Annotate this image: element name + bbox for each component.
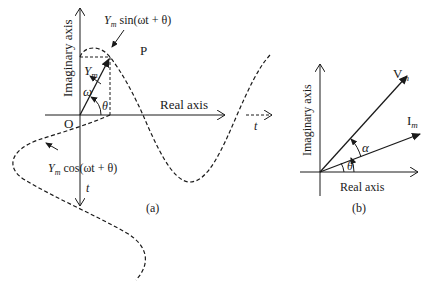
time-label-down: t <box>86 181 90 195</box>
phasor-ym-label: Ym <box>84 63 98 80</box>
theta-arc-b <box>341 163 344 172</box>
vm-label: Vm <box>393 66 409 83</box>
im-label: Im <box>407 113 418 130</box>
alpha-label: α <box>362 140 370 155</box>
imaginary-axis-label-a: Imaginary axis <box>60 19 75 97</box>
theta-label-a: θ <box>102 99 108 113</box>
real-axis-label-b: Real axis <box>340 180 385 194</box>
time-label-right: t <box>254 119 258 133</box>
cosine-trace <box>13 115 146 280</box>
panel-b: Imaginary axis Real axis Vm Im α θ (b) <box>300 64 420 215</box>
theta-label-b: θ <box>347 159 353 173</box>
phasor-diagram: Imaginary axis Real axis O P Ym ω θ Ym s… <box>0 0 433 293</box>
alpha-arc <box>351 139 361 157</box>
phasor-im <box>320 134 420 172</box>
point-p-label: P <box>140 43 147 58</box>
panel-a-caption: (a) <box>146 201 159 215</box>
imaginary-axis-label-b: Imaginary axis <box>300 84 314 156</box>
real-axis-label-a: Real axis <box>160 97 208 112</box>
sin-expression-label: Ym sin(ωt + θ) <box>104 13 171 29</box>
cos-leader-arrow-icon <box>46 143 58 150</box>
sin-leader-arrow-icon <box>112 30 124 47</box>
panel-b-caption: (b) <box>352 201 366 215</box>
origin-label: O <box>64 116 73 131</box>
panel-a: Imaginary axis Real axis O P Ym ω θ Ym s… <box>13 8 272 280</box>
theta-arc-a <box>91 97 101 115</box>
omega-label: ω <box>83 84 92 99</box>
cos-expression-label: Ym cos(ωt + θ) <box>48 161 117 177</box>
phasor-vm <box>320 76 407 172</box>
